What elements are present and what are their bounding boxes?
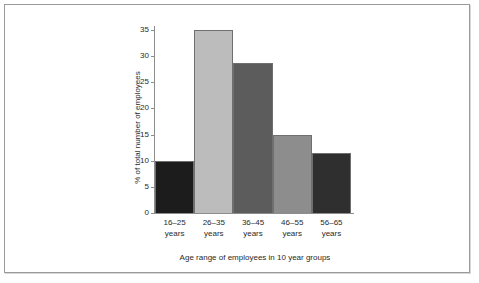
y-axis-tick-mark <box>151 56 154 57</box>
y-axis-title-container: % of total number of employees <box>115 35 135 215</box>
figure-frame: % of total number of employees 051015202… <box>4 4 470 273</box>
x-axis-tick-label: 36–45years <box>233 217 272 239</box>
bar <box>155 161 194 213</box>
y-axis-tick-label: 35 <box>140 26 149 34</box>
x-axis-title: Age range of employees in 10 year groups <box>85 253 425 262</box>
y-axis-tick-label: 5 <box>145 183 149 191</box>
bar <box>194 30 233 213</box>
x-axis-tick-label: 56–65years <box>312 217 351 239</box>
x-axis-line <box>154 213 354 214</box>
plot-area: 05101520253035 <box>154 30 350 213</box>
y-axis-tick-mark <box>151 187 154 188</box>
y-axis-tick-label: 30 <box>140 52 149 60</box>
y-axis-tick-mark <box>151 82 154 83</box>
y-axis-tick-label: 25 <box>140 78 149 86</box>
y-axis-tick-mark <box>151 30 154 31</box>
x-axis-tick-labels: 16–25years26–35years36–45years46–55years… <box>155 217 351 239</box>
y-axis-tick-label: 0 <box>145 209 149 217</box>
y-axis-tick-mark <box>151 213 154 214</box>
bar <box>233 63 272 213</box>
x-axis-tick-label: 46–55years <box>273 217 312 239</box>
x-axis-tick-label: 16–25years <box>155 217 194 239</box>
y-axis-tick-label: 15 <box>140 131 149 139</box>
x-axis-tick-label: 26–35years <box>194 217 233 239</box>
y-axis-tick-label: 10 <box>140 157 149 165</box>
bar <box>312 153 351 213</box>
bar-series <box>155 30 351 213</box>
bar <box>273 135 312 213</box>
y-axis-tick-mark <box>151 108 154 109</box>
y-axis-tick-mark <box>151 161 154 162</box>
y-axis-tick-label: 20 <box>140 104 149 112</box>
y-axis-tick-mark <box>151 135 154 136</box>
